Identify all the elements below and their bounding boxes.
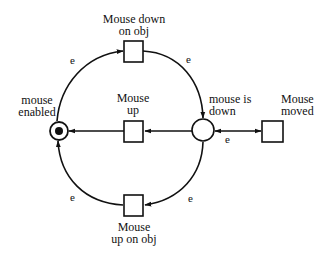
edge-label-top-left: e	[70, 55, 75, 66]
transition-mouse-down-on-obj[interactable]	[124, 41, 143, 62]
label-mouse-up: Mouse up	[110, 92, 156, 116]
petri-net-diagram	[0, 0, 329, 256]
label-mouse-is-down: mouse is down	[209, 93, 251, 117]
arc-is-down-to-up-on-obj	[145, 142, 203, 205]
edge-label-bottom-right: e	[188, 193, 193, 204]
edge-label-top-right: e	[186, 54, 191, 65]
label-mouse-down-on-obj: Mouse down on obj	[100, 13, 168, 37]
label-mouse-enabled: mouse enabled	[12, 94, 62, 118]
label-mouse-up-on-obj: Mouse up on obj	[104, 221, 164, 245]
transition-mouse-up[interactable]	[124, 121, 143, 142]
edge-label-bottom-left: e	[70, 192, 75, 203]
token-icon	[55, 127, 63, 135]
transition-mouse-moved[interactable]	[262, 121, 283, 142]
arc-up-on-obj-to-enabled	[58, 141, 123, 205]
transition-mouse-up-on-obj[interactable]	[124, 195, 143, 216]
place-mouse-enabled[interactable]	[50, 122, 68, 140]
label-mouse-moved: Mouse moved	[281, 93, 314, 117]
edge-label-moved: e	[225, 134, 230, 145]
place-mouse-is-down[interactable]	[192, 119, 214, 141]
